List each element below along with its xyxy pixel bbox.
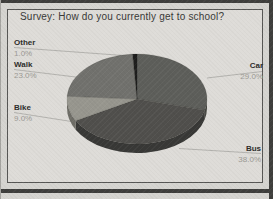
callout-car: Car 29.0% (240, 61, 263, 81)
pie-slices (67, 54, 207, 153)
callout-car-label: Car (240, 61, 263, 70)
callout-bike-label: Bike (14, 103, 32, 112)
callout-walk: Walk 23.0% (14, 60, 37, 80)
callout-other: Other 1.0% (14, 38, 35, 58)
callout-bus-label: Bus (238, 144, 261, 153)
callout-other-value: 1.0% (14, 49, 35, 58)
callout-walk-value: 23.0% (14, 71, 37, 80)
callout-walk-label: Walk (14, 60, 37, 69)
callout-bus: Bus 38.0% (238, 144, 261, 164)
callout-bus-value: 38.0% (238, 155, 261, 164)
callout-other-label: Other (14, 38, 35, 47)
callout-car-value: 29.0% (240, 72, 263, 81)
callout-bike-value: 9.0% (14, 114, 32, 123)
scanned-chart-screenshot: { "chart_data": { "type": "pie", "style"… (0, 0, 273, 199)
callout-bike: Bike 9.0% (14, 103, 32, 123)
pie-chart (0, 0, 273, 199)
